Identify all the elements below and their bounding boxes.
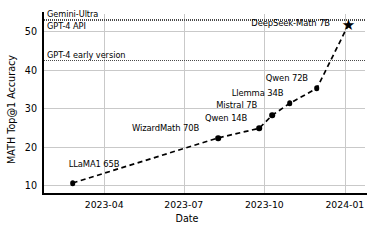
reference-line — [42, 60, 365, 61]
data-point-star-marker: ★ — [342, 17, 355, 32]
data-point-marker — [70, 180, 76, 186]
data-point-marker — [215, 135, 221, 141]
data-point-marker — [314, 85, 320, 91]
plot-area: Gemini-UltraGPT-4 APIGPT-4 early version… — [42, 14, 365, 193]
x-tick-label: 2023-10 — [245, 199, 284, 210]
data-point-label: Qwen 72B — [266, 73, 308, 83]
reference-line-label: Gemini-Ultra — [47, 9, 98, 19]
data-point-label: LLaMA1 65B — [69, 159, 120, 169]
data-point-marker — [269, 112, 275, 118]
data-point-marker — [256, 126, 262, 132]
reference-line-label: GPT-4 early version — [47, 50, 125, 60]
x-axis-spine — [42, 193, 367, 195]
y-axis-spine — [42, 12, 44, 195]
y-axis-label: MATH Top@1 Accuracy — [6, 35, 17, 185]
data-point-label: Qwen 14B — [205, 113, 247, 123]
chart-figure: Gemini-UltraGPT-4 APIGPT-4 early version… — [0, 0, 374, 236]
x-tick-label: 2023-07 — [164, 199, 203, 210]
data-point-label: DeepSeek-Math 7B — [251, 18, 330, 28]
x-tick-label: 2024-01 — [325, 199, 364, 210]
data-point-label: Llemma 34B — [232, 88, 284, 98]
data-point-label: WizardMath 70B — [132, 123, 199, 133]
x-axis-label: Date — [0, 213, 374, 224]
reference-line-label: GPT-4 API — [47, 21, 86, 31]
x-tick-label: 2023-04 — [85, 199, 124, 210]
data-point-marker — [287, 101, 293, 107]
data-point-label: Mistral 7B — [216, 100, 257, 110]
